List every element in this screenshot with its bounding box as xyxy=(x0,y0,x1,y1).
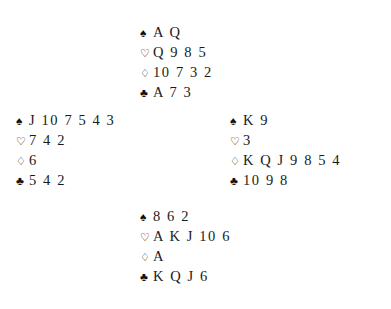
east-heart-row: ♡ 3 xyxy=(230,130,341,150)
club-suit-symbol: ♣ xyxy=(140,267,152,287)
hand-north: ♠ A Q ♡ Q 9 8 5 ♢ 10 7 3 2 ♣ A 7 3 xyxy=(140,22,213,102)
spade-suit-symbol: ♠ xyxy=(140,207,152,227)
south-diamond-row: ♢ A xyxy=(140,246,231,266)
west-club-cards: 5 4 2 xyxy=(28,170,66,190)
west-diamond-cards: 6 xyxy=(28,150,38,170)
south-diamond-cards: A xyxy=(152,246,165,266)
club-suit-symbol: ♣ xyxy=(140,83,152,103)
spade-suit-symbol: ♠ xyxy=(230,111,242,131)
east-spade-cards: K 9 xyxy=(242,110,269,130)
heart-suit-symbol: ♡ xyxy=(230,131,242,151)
east-spade-row: ♠ K 9 xyxy=(230,110,341,130)
hand-west: ♠ J 10 7 5 4 3 ♡ 7 4 2 ♢ 6 ♣ 5 4 2 xyxy=(16,110,115,190)
diamond-suit-symbol: ♢ xyxy=(230,151,242,171)
west-spade-cards: J 10 7 5 4 3 xyxy=(28,110,115,130)
east-club-cards: 10 9 8 xyxy=(242,170,289,190)
hand-east: ♠ K 9 ♡ 3 ♢ K Q J 9 8 5 4 ♣ 10 9 8 xyxy=(230,110,341,190)
diamond-suit-symbol: ♢ xyxy=(140,63,152,83)
heart-suit-symbol: ♡ xyxy=(140,227,152,247)
north-diamond-cards: 10 7 3 2 xyxy=(152,62,213,82)
south-club-row: ♣ K Q J 6 xyxy=(140,266,231,286)
heart-suit-symbol: ♡ xyxy=(140,43,152,63)
hand-south: ♠ 8 6 2 ♡ A K J 10 6 ♢ A ♣ K Q J 6 xyxy=(140,206,231,286)
north-spade-row: ♠ A Q xyxy=(140,22,213,42)
north-heart-row: ♡ Q 9 8 5 xyxy=(140,42,213,62)
south-heart-row: ♡ A K J 10 6 xyxy=(140,226,231,246)
west-heart-row: ♡ 7 4 2 xyxy=(16,130,115,150)
south-spade-cards: 8 6 2 xyxy=(152,206,190,226)
west-spade-row: ♠ J 10 7 5 4 3 xyxy=(16,110,115,130)
east-heart-cards: 3 xyxy=(242,130,252,150)
north-club-cards: A 7 3 xyxy=(152,82,192,102)
west-diamond-row: ♢ 6 xyxy=(16,150,115,170)
south-club-cards: K Q J 6 xyxy=(152,266,209,286)
spade-suit-symbol: ♠ xyxy=(140,23,152,43)
club-suit-symbol: ♣ xyxy=(230,171,242,191)
club-suit-symbol: ♣ xyxy=(16,171,28,191)
north-spade-cards: A Q xyxy=(152,22,182,42)
diamond-suit-symbol: ♢ xyxy=(16,151,28,171)
diamond-suit-symbol: ♢ xyxy=(140,247,152,267)
east-diamond-row: ♢ K Q J 9 8 5 4 xyxy=(230,150,341,170)
heart-suit-symbol: ♡ xyxy=(16,131,28,151)
north-club-row: ♣ A 7 3 xyxy=(140,82,213,102)
east-club-row: ♣ 10 9 8 xyxy=(230,170,341,190)
west-heart-cards: 7 4 2 xyxy=(28,130,66,150)
south-heart-cards: A K J 10 6 xyxy=(152,226,231,246)
bridge-deal-diagram: ♠ A Q ♡ Q 9 8 5 ♢ 10 7 3 2 ♣ A 7 3 ♠ J 1… xyxy=(0,0,391,309)
north-heart-cards: Q 9 8 5 xyxy=(152,42,207,62)
spade-suit-symbol: ♠ xyxy=(16,111,28,131)
south-spade-row: ♠ 8 6 2 xyxy=(140,206,231,226)
north-diamond-row: ♢ 10 7 3 2 xyxy=(140,62,213,82)
west-club-row: ♣ 5 4 2 xyxy=(16,170,115,190)
east-diamond-cards: K Q J 9 8 5 4 xyxy=(242,150,341,170)
